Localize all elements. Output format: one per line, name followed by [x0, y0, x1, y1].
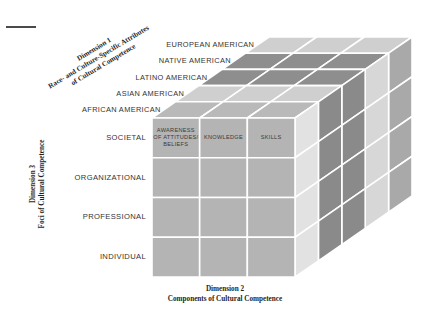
front-face-cell-r3-c2 — [200, 198, 248, 238]
dimension3-title-line1: Dimension 3 — [29, 124, 38, 244]
dimension2-title-line1: Dimension 2 — [150, 285, 300, 295]
dimension3-label-3: PROFESSIONAL — [6, 212, 146, 221]
front-face-cell-r3-c3 — [247, 198, 295, 238]
dimension3-label-2: ORGANIZATIONAL — [6, 173, 146, 182]
dimension2-column-caption-1: AWARENESS OF ATTITUDES/ BELIEFS — [152, 127, 200, 149]
dimension3-title-line2: Foci of Cultural Competence — [38, 124, 47, 244]
dimension3-axis-title: Dimension 3 Foci of Cultural Competence — [29, 124, 47, 244]
dimension2-column-caption-3: SKILLS — [247, 134, 295, 141]
dimension1-label-4: ASIAN AMERICAN — [24, 89, 184, 98]
front-face-cell-r2-c2 — [200, 158, 248, 198]
dimension1-label-3: LATINO AMERICAN — [48, 73, 208, 82]
dimension1-label-5: AFRICAN AMERICAN — [1, 105, 161, 114]
front-face-cell-r2-c1 — [152, 158, 200, 198]
front-face-cell-r2-c3 — [247, 158, 295, 198]
dimension2-column-caption-2: KNOWLEDGE — [200, 134, 248, 141]
dimension1-label-1: EUROPEAN AMERICAN — [94, 40, 254, 49]
dimension3-label-4: INDIVIDUAL — [6, 252, 146, 261]
front-face-cell-r3-c1 — [152, 198, 200, 238]
dimension1-label-2: NATIVE AMERICAN — [71, 56, 231, 65]
front-face-cell-r4-c1 — [152, 237, 200, 277]
front-face-cell-r4-c3 — [247, 237, 295, 277]
dimension2-axis-title: Dimension 2 Components of Cultural Compe… — [150, 285, 300, 304]
figure-container: Dimension 1 Race- and Culture-Specific A… — [0, 0, 435, 317]
dimension2-title-line2: Components of Cultural Competence — [150, 295, 300, 305]
front-face-cell-r4-c2 — [200, 237, 248, 277]
dimension3-label-1: SOCIETAL — [6, 133, 146, 142]
